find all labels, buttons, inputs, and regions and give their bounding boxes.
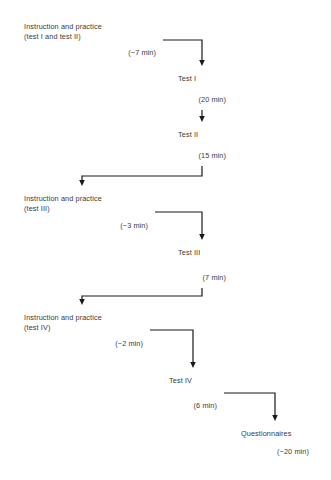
node-subtitle: (test III)	[24, 204, 148, 214]
node-title: Test I	[178, 74, 226, 84]
node-title: Questionnaires	[241, 429, 309, 439]
node-title: Test III	[178, 248, 226, 258]
node-title: Test II	[178, 130, 226, 140]
node-duration: (~3 min)	[120, 221, 148, 231]
node-test-3: Test III (7 min)	[171, 242, 233, 288]
node-duration: (~20 min)	[277, 447, 309, 457]
connector-test3-to-instr3	[82, 288, 202, 302]
node-test-1: Test I (20 min)	[171, 68, 233, 110]
node-subtitle: (test I and test II)	[24, 32, 156, 42]
node-body: Instruction and practice (test I and tes…	[17, 16, 163, 63]
node-questionnaires: Questionnaires (~20 min)	[234, 423, 316, 462]
node-test-2: Test II (15 min)	[171, 124, 233, 166]
node-duration: (6 min)	[194, 401, 217, 411]
node-duration: (~2 min)	[115, 339, 143, 349]
connector-instr1-to-test1	[163, 40, 202, 63]
node-instruction-practice-1: Instruction and practice (test I and tes…	[17, 16, 163, 63]
node-body: Test IV (6 min)	[162, 370, 224, 416]
node-instruction-practice-3: Instruction and practice (test IV) (~2 m…	[17, 307, 150, 354]
node-title: Instruction and practice	[24, 194, 148, 204]
node-body: Questionnaires (~20 min)	[234, 423, 316, 462]
node-duration: (20 min)	[198, 95, 226, 105]
node-title: Instruction and practice	[24, 313, 143, 323]
node-body: Instruction and practice (test IV) (~2 m…	[17, 307, 150, 354]
node-body: Test I (20 min)	[171, 68, 233, 110]
connector-test2-to-instr2	[82, 166, 202, 183]
flowchart-canvas: Instruction and practice (test I and tes…	[0, 0, 331, 480]
connector-instr3-to-test4	[150, 330, 193, 365]
node-duration: (15 min)	[198, 151, 226, 161]
node-duration: (~7 min)	[128, 48, 156, 58]
connector-instr2-to-test3	[155, 212, 202, 237]
node-body: Test III (7 min)	[171, 242, 233, 288]
node-subtitle: (test IV)	[24, 323, 143, 333]
connector-test4-to-questionnaires	[224, 393, 275, 418]
node-title: Instruction and practice	[24, 22, 156, 32]
node-instruction-practice-2: Instruction and practice (test III) (~3 …	[17, 188, 155, 236]
node-duration: (7 min)	[203, 273, 226, 283]
node-body: Test II (15 min)	[171, 124, 233, 166]
node-test-4: Test IV (6 min)	[162, 370, 224, 416]
node-title: Test IV	[169, 376, 217, 386]
node-body: Instruction and practice (test III) (~3 …	[17, 188, 155, 236]
